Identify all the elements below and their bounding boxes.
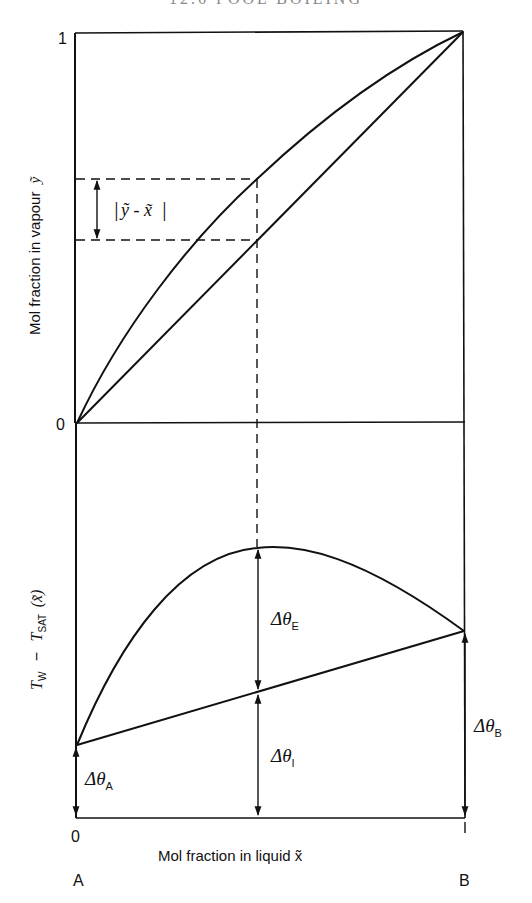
theta-e-label: ΔθE [270,608,299,632]
upper-y-axis-label: Mol fraction in vapour ỹ [26,176,43,335]
theta-a-label: ΔθA [84,768,113,792]
x-axis-label: Mol fraction in liquid x̃ [158,847,303,864]
lower-plot: ΔθA ΔθE ΔθI ΔθB TW − TSAT (x̃) [28,423,502,818]
x-axis: 0 Mol fraction in liquid x̃ A B [71,822,470,889]
difference-label: ỹ - x̃ [119,200,153,220]
x-tick-0: 0 [71,828,80,845]
upper-top-border [75,31,463,33]
diagonal-line [77,32,463,423]
difference-bar-right: | [161,196,167,221]
upper-zero-line [75,422,465,423]
ideal-superheat-line [77,631,464,745]
upper-y-tick-1: 1 [58,30,67,47]
theta-i-label: ΔθI [270,745,295,769]
lower-y-axis-label: TW − TSAT (x̃) [28,590,49,690]
page-header: 12.6 POOL BOILING [169,0,363,7]
component-a-label: A [73,872,84,889]
component-b-label: B [459,872,470,889]
upper-plot: | ỹ - x̃ | 1 0 Mol fraction in vapour ỹ [26,30,465,818]
vle-superheat-figure: 12.6 POOL BOILING | ỹ - x̃ | 1 0 Mol fra… [0,0,532,903]
difference-bar-left: | [113,196,119,221]
actual-superheat-curve [77,547,464,745]
upper-y-tick-0: 0 [56,416,65,433]
theta-b-label: ΔθB [473,715,502,739]
